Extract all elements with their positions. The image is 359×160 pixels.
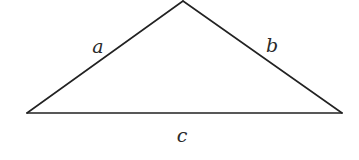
- side-a-label: a: [92, 35, 103, 57]
- triangle-diagram: a b c: [0, 0, 359, 160]
- triangle: [27, 1, 342, 113]
- side-b-edge: [183, 1, 342, 113]
- side-a-edge: [27, 1, 183, 113]
- side-b-label: b: [266, 34, 278, 56]
- side-c-label: c: [177, 124, 188, 146]
